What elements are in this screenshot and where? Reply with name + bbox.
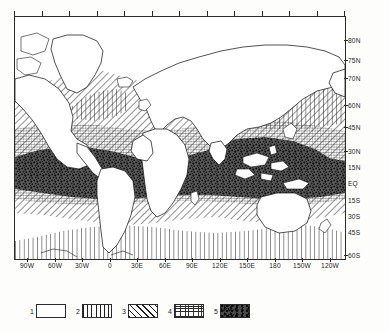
x-tick-label: 60E xyxy=(159,262,171,269)
y-tick-label: 60N xyxy=(348,102,361,109)
legend-item-5: 5 xyxy=(214,300,250,322)
y-tick-label: 60S xyxy=(348,252,360,259)
x-tick-label: 150W xyxy=(293,262,311,269)
x-tick-label: 90E xyxy=(186,262,198,269)
y-tick-label: 80N xyxy=(348,37,361,44)
map-plot-area xyxy=(14,16,346,260)
legend-swatch-blank xyxy=(36,304,66,318)
x-tick-label: 30E xyxy=(131,262,143,269)
legend-item-4: 4 xyxy=(168,300,204,322)
legend: 1 2 3 4 5 xyxy=(14,300,344,324)
x-tick-label: 90W xyxy=(20,262,34,269)
legend-swatch-dark-stipple xyxy=(220,304,250,318)
x-tick-label: 120E xyxy=(212,262,228,269)
legend-swatch-diagonal-hatch xyxy=(128,304,158,318)
y-tick-label: 70N xyxy=(348,75,361,82)
x-tick-label: 180 xyxy=(269,262,280,269)
legend-number: 5 xyxy=(214,308,218,315)
y-tick-label: 45S xyxy=(348,229,360,236)
legend-item-3: 3 xyxy=(122,300,158,322)
x-tick-label: 120W xyxy=(321,262,339,269)
x-tick-label: 0 xyxy=(108,262,112,269)
legend-swatch-vertical-lines xyxy=(82,304,112,318)
map-canvas xyxy=(15,17,345,259)
legend-item-2: 2 xyxy=(76,300,112,322)
y-tick-label: 15S xyxy=(348,197,360,204)
legend-number: 3 xyxy=(122,308,126,315)
x-tick-label: 60W xyxy=(48,262,62,269)
y-tick-label: 15N xyxy=(348,164,361,171)
land-layer xyxy=(15,17,345,259)
y-tick-label: EQ xyxy=(348,180,358,187)
y-tick-label: 45N xyxy=(348,124,361,131)
legend-number: 2 xyxy=(76,308,80,315)
x-tick-label: 30W xyxy=(75,262,89,269)
y-tick-label: 75N xyxy=(348,57,361,64)
y-tick-label: 30N xyxy=(348,148,361,155)
y-tick-label: 30S xyxy=(348,213,360,220)
x-tick-label: 150E xyxy=(239,262,255,269)
legend-number: 1 xyxy=(30,308,34,315)
map-figure: 90W 60W 30W 0 30E 60E 90E 120E 150E 180 … xyxy=(0,0,389,331)
legend-number: 4 xyxy=(168,308,172,315)
legend-item-1: 1 xyxy=(30,300,66,322)
legend-swatch-cross-hatch xyxy=(174,304,204,318)
